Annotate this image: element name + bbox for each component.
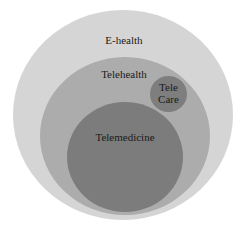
telemedicine-circle bbox=[67, 102, 183, 212]
telemedicine-label: Telemedicine bbox=[90, 131, 160, 143]
telecare-label-line2: Care bbox=[150, 93, 187, 105]
telecare-label-line1: Tele bbox=[150, 81, 187, 93]
telehealth-label: Telehealth bbox=[96, 68, 152, 80]
ehealth-label: E-health bbox=[99, 34, 149, 46]
